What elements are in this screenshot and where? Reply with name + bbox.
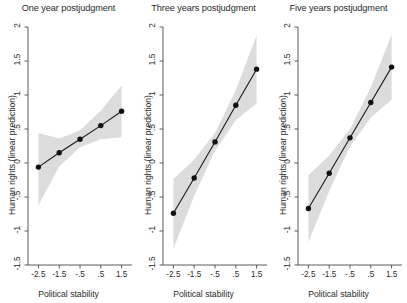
data-point-marker	[119, 109, 124, 114]
data-point-marker	[327, 171, 332, 176]
data-point-marker	[368, 100, 373, 105]
data-point-marker	[77, 137, 82, 142]
plot-area	[271, 0, 406, 303]
chart-panel-three-years: Three years postjudgment Human rights (l…	[136, 0, 271, 303]
data-point-marker	[192, 175, 197, 180]
data-point-marker	[98, 123, 103, 128]
data-point-marker	[171, 211, 176, 216]
plot-area	[136, 0, 271, 303]
data-point-marker	[389, 64, 394, 69]
data-point-marker	[347, 135, 352, 140]
confidence-interval-band	[38, 85, 121, 205]
data-point-marker	[212, 139, 217, 144]
plot-area	[1, 0, 136, 303]
data-point-marker	[57, 150, 62, 155]
chart-panel-one-year: One year postjudgment Human rights (line…	[1, 0, 136, 303]
figure-panel-chart: One year postjudgment Human rights (line…	[0, 0, 407, 303]
chart-panel-five-years: Five years postjudgment Human rights (li…	[271, 0, 406, 303]
data-point-marker	[306, 206, 311, 211]
data-point-marker	[233, 103, 238, 108]
data-point-marker	[254, 66, 259, 71]
data-point-marker	[36, 164, 41, 169]
